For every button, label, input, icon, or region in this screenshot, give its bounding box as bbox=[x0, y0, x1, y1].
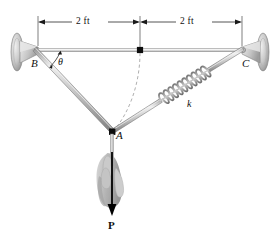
spring-turns bbox=[157, 65, 211, 106]
hand-finger-mid bbox=[101, 168, 111, 189]
dimension-label-left: 2 ft bbox=[76, 17, 90, 27]
dimension-group bbox=[38, 16, 242, 48]
dimension-label-right: 2 ft bbox=[180, 17, 194, 27]
hand-illustration bbox=[97, 153, 124, 208]
label-support-C: C bbox=[242, 58, 249, 69]
member-AC-lower-highlight bbox=[114, 99, 161, 129]
figure-canvas bbox=[0, 0, 279, 238]
label-joint-A: A bbox=[116, 130, 123, 141]
label-spring-stiffness-k: k bbox=[187, 99, 191, 109]
spring-coil bbox=[157, 65, 211, 106]
label-force-P: P bbox=[108, 220, 115, 231]
midpoint-marker bbox=[137, 47, 143, 53]
horizontal-reference-bar bbox=[38, 47, 243, 53]
force-arrow-head bbox=[108, 204, 117, 216]
label-support-B: B bbox=[31, 58, 38, 69]
member-BA bbox=[33, 47, 113, 131]
mechanics-figure: 2 ft 2 ft B C A θ k P bbox=[0, 0, 279, 238]
dimension-arrow-right-in bbox=[140, 20, 147, 25]
member-AC-lower-rod bbox=[113, 99, 162, 133]
dimension-arrow-right-out bbox=[235, 20, 242, 25]
member-BA-body bbox=[33, 47, 113, 131]
dimension-arrow-left-in bbox=[133, 20, 140, 25]
member-BA-highlight bbox=[36, 48, 113, 129]
label-angle-theta: θ bbox=[58, 57, 63, 67]
dimension-arrow-left-out bbox=[38, 20, 45, 25]
